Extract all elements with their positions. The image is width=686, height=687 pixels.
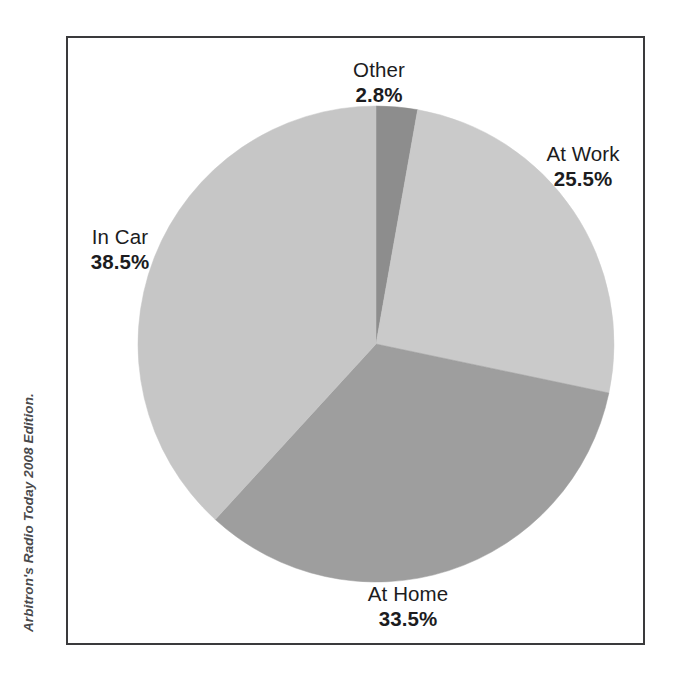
pie-label-at-home-name: At Home: [328, 581, 488, 606]
pie-label-other-value: 2.8%: [309, 82, 449, 107]
pie-chart-svg: [66, 36, 645, 645]
pie-label-at-work: At Work 25.5%: [513, 141, 653, 191]
pie-label-in-car-value: 38.5%: [50, 249, 190, 274]
pie-label-other-name: Other: [309, 57, 449, 82]
pie-label-at-home: At Home 33.5%: [328, 581, 488, 631]
source-credit-text: Arbitron's Radio Today 2008 Edition.: [18, 332, 40, 632]
pie-label-at-work-value: 25.5%: [513, 166, 653, 191]
pie-label-other: Other 2.8%: [309, 57, 449, 107]
pie-chart: [66, 36, 645, 645]
figure-page: Other 2.8% At Work 25.5% In Car 38.5% At…: [0, 0, 686, 687]
pie-label-in-car-name: In Car: [50, 224, 190, 249]
pie-label-at-home-value: 33.5%: [328, 606, 488, 631]
pie-label-in-car: In Car 38.5%: [50, 224, 190, 274]
pie-label-at-work-name: At Work: [513, 141, 653, 166]
